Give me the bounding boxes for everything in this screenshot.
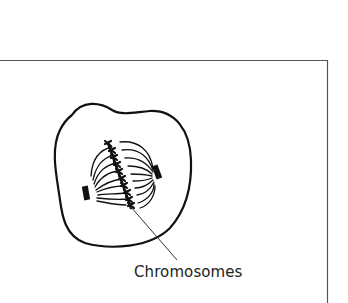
spindle-fibers bbox=[91, 142, 155, 208]
chromosomes-label: Chromosomes bbox=[134, 263, 243, 281]
cell-membrane bbox=[55, 104, 191, 247]
centrosome-left bbox=[82, 186, 90, 201]
metaphase-cell-diagram bbox=[0, 0, 348, 303]
chromosomes-metaphase-plate bbox=[105, 141, 134, 208]
leader-line bbox=[131, 207, 177, 260]
